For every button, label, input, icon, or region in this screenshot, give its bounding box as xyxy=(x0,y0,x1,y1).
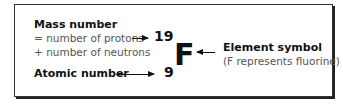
element-symbol: F xyxy=(174,40,195,70)
mass-number-neutrons-text: + number of neutrons xyxy=(34,46,150,58)
mass-number-label: Mass number xyxy=(34,18,117,31)
element-symbol-label: Element symbol xyxy=(223,41,322,54)
atomic-number-value: 9 xyxy=(164,64,174,80)
atomic-number-arrow-icon xyxy=(116,74,154,75)
element-symbol-note: (F represents fluorine) xyxy=(223,55,340,67)
element-symbol-arrow-icon xyxy=(197,52,215,53)
atomic-number-label: Atomic number xyxy=(34,67,129,80)
mass-number-protons-text: = number of protons xyxy=(34,32,144,44)
mass-number-value: 19 xyxy=(154,28,173,44)
mass-number-arrow-icon xyxy=(132,38,148,39)
